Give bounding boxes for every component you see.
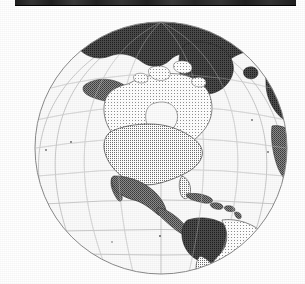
globe-map-figure bbox=[0, 0, 305, 284]
orthographic-globe bbox=[0, 0, 305, 284]
region-iceland bbox=[243, 67, 258, 79]
